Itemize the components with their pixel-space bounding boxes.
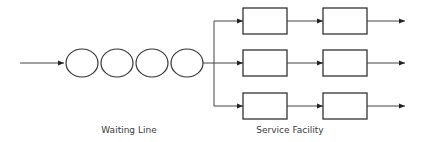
server-box-r1-p2: [323, 8, 367, 34]
server-box-r2-p2: [323, 50, 367, 76]
service-facility-label: Service Facility: [256, 125, 324, 135]
queue-diagram: Waiting Line Service Facility: [0, 0, 421, 142]
waiting-line: [66, 49, 203, 77]
customer-circle: [66, 49, 98, 77]
server-box-r1-p1: [243, 8, 287, 34]
customer-circle: [136, 49, 168, 77]
server-box-r3-p1: [243, 93, 287, 119]
waiting-line-label: Waiting Line: [101, 125, 157, 135]
customer-circle: [171, 49, 203, 77]
server-box-r2-p1: [243, 50, 287, 76]
server-box-r3-p2: [323, 93, 367, 119]
customer-circle: [101, 49, 133, 77]
